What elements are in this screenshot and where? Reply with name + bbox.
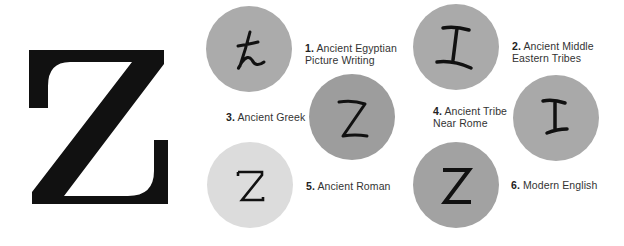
stage-4-circle	[513, 75, 599, 161]
stage-1-label: 1. Ancient Egyptian Picture Writing	[305, 42, 397, 66]
stage-5-circle	[207, 142, 293, 228]
stage-5-label: 5. Ancient Roman	[306, 180, 391, 192]
zayin-glyph-icon	[413, 4, 499, 90]
roman-z-glyph-icon	[207, 142, 293, 228]
stage-4-label: 4. Ancient Tribe Near Rome	[433, 105, 507, 129]
stage-3-circle	[309, 74, 395, 160]
stage-6-circle	[413, 142, 499, 228]
stage-3-label: 3. Ancient Greek	[226, 111, 305, 123]
stage-6-label: 6. Modern English	[511, 179, 597, 191]
stage-2-label: 2. Ancient Middle Eastern Tribes	[512, 40, 594, 64]
greek-zeta-glyph-icon	[309, 74, 395, 160]
etruscan-glyph-icon	[513, 75, 599, 161]
stage-1-circle	[206, 6, 292, 92]
egyptian-snake-glyph-icon	[206, 6, 292, 92]
modern-z-glyph-icon	[413, 142, 499, 228]
big-letter-z	[26, 46, 172, 210]
stage-2-circle	[413, 4, 499, 90]
